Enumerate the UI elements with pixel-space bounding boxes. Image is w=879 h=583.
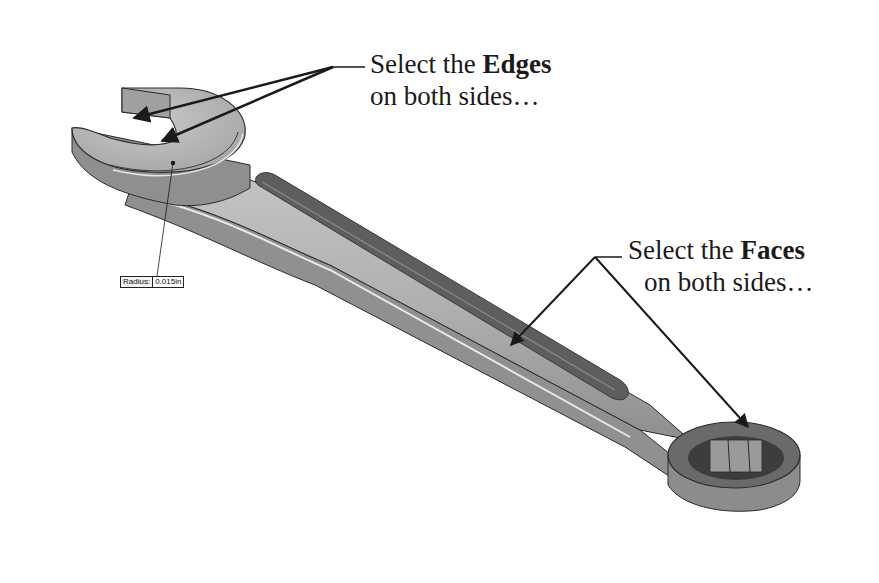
faces-callout-prefix: Select the (628, 235, 740, 265)
box-end-faces (710, 440, 762, 472)
open-end-head (72, 88, 250, 206)
edges-callout-line2: on both sides… (370, 80, 552, 112)
shaft-groove (255, 173, 628, 400)
radius-value-field[interactable]: 0.015in (153, 276, 184, 288)
faces-callout: Select the Faces on both sides… (628, 234, 814, 298)
faces-callout-line2: on both sides… (628, 266, 814, 298)
edges-callout-keyword: Edges (482, 49, 551, 79)
faces-callout-keyword: Faces (740, 235, 804, 265)
wrench-shaft (125, 170, 690, 480)
radius-label: Radius: (120, 276, 153, 288)
edges-callout-prefix: Select the (370, 49, 482, 79)
radius-dimension-tag[interactable]: Radius: 0.015in (120, 276, 184, 288)
edges-callout: Select the Edges on both sides… (370, 48, 552, 112)
box-end-head (668, 422, 800, 511)
